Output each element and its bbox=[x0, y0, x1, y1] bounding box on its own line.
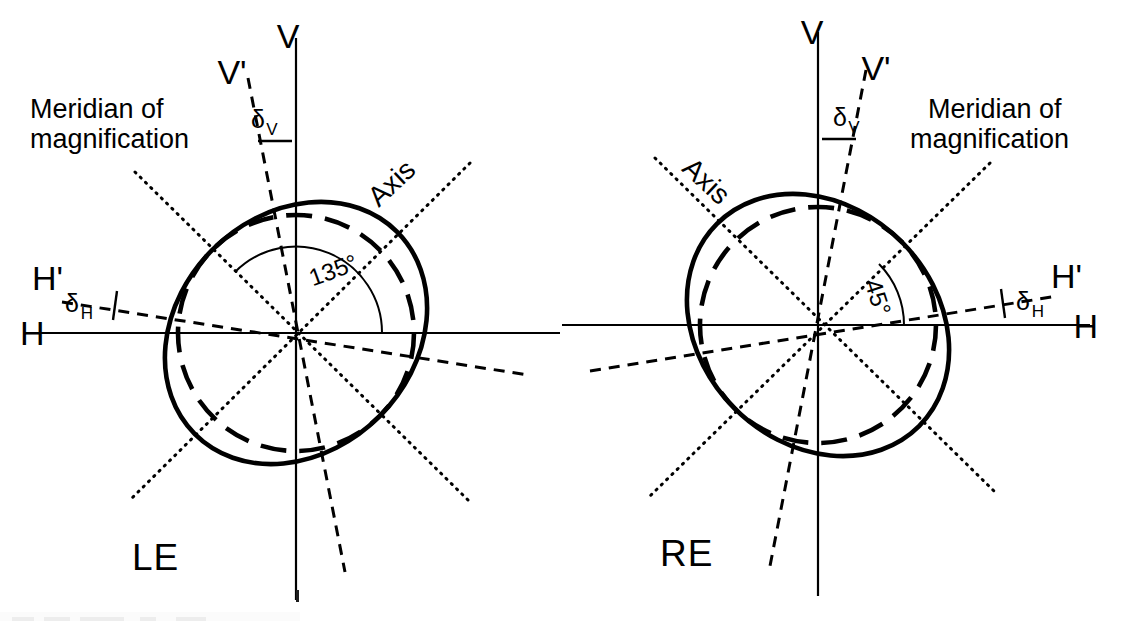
right-label-eye: RE bbox=[660, 533, 713, 574]
figure-root: V V' H H' δ V δ H Meridian of magnificat… bbox=[0, 0, 1124, 626]
left-delta-h-tick bbox=[113, 291, 117, 320]
right-label-axis: Axis bbox=[677, 152, 737, 211]
left-delta-h-subscript: H bbox=[81, 304, 93, 323]
right-delta-h-subscript: H bbox=[1032, 302, 1044, 321]
left-label-delta-h: δ H bbox=[65, 289, 93, 323]
right-delta-h-glyph: δ bbox=[1016, 287, 1030, 315]
left-label-delta-v: δ V bbox=[251, 105, 278, 139]
right-delta-v-subscript: V bbox=[848, 118, 860, 137]
right-label-Hprime: H' bbox=[1051, 257, 1082, 295]
panel-right-eye: V V' H H' δ V δ H Meridian of magnificat… bbox=[562, 13, 1098, 596]
left-label-V: V bbox=[277, 17, 300, 55]
right-delta-v-glyph: δ bbox=[833, 103, 847, 131]
left-label-Hprime: H' bbox=[32, 259, 63, 297]
right-label-meridian-line2: magnification bbox=[910, 124, 1069, 154]
left-label-axis: Axis bbox=[362, 154, 422, 213]
left-label-meridian-line2: magnification bbox=[30, 124, 189, 154]
left-label-H: H bbox=[20, 314, 45, 352]
left-delta-h-glyph: δ bbox=[65, 289, 79, 317]
left-label-angle: 135° bbox=[305, 249, 361, 291]
right-label-angle: 45° bbox=[860, 276, 897, 319]
diagram-canvas: V V' H H' δ V δ H Meridian of magnificat… bbox=[0, 0, 1124, 626]
left-label-eye: LE bbox=[132, 537, 179, 578]
cropped-caption-artifact bbox=[0, 590, 300, 621]
right-label-meridian-line1: Meridian of bbox=[928, 94, 1062, 124]
right-label-delta-h: δ H bbox=[1016, 287, 1044, 321]
left-delta-v-glyph: δ bbox=[251, 105, 265, 133]
left-label-Vprime: V' bbox=[217, 53, 246, 91]
left-delta-v-subscript: V bbox=[266, 120, 278, 139]
left-angle-arc bbox=[235, 247, 382, 333]
right-label-Vprime: V' bbox=[861, 49, 890, 87]
right-label-H: H bbox=[1073, 307, 1098, 345]
right-horizontal-prime-axis-Hprime bbox=[590, 296, 1058, 371]
right-label-V: V bbox=[801, 13, 824, 51]
right-label-delta-v: δ V bbox=[833, 103, 860, 137]
left-label-meridian-line1: Meridian of bbox=[30, 94, 164, 124]
panel-left-eye: V V' H H' δ V δ H Meridian of magnificat… bbox=[20, 17, 560, 600]
